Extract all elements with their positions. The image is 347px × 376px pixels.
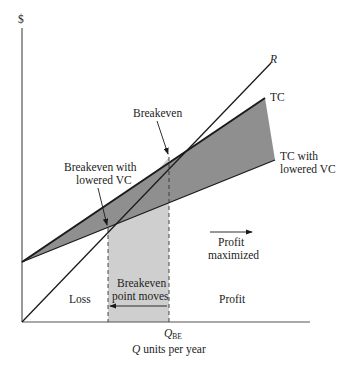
y-axis-label: $ bbox=[18, 13, 24, 25]
profit-label: Profit bbox=[219, 293, 246, 305]
qbe-tick-label: QBE bbox=[164, 327, 182, 341]
loss-label: Loss bbox=[69, 293, 91, 305]
breakeven-pointer bbox=[157, 121, 168, 154]
total-cost-label: TC bbox=[270, 91, 285, 103]
tc-lowered-label-2: lowered VC bbox=[280, 163, 336, 175]
qbe-subscript: BE bbox=[172, 332, 182, 341]
profit-max-label-2: maximized bbox=[208, 249, 259, 261]
moves-label-2: point moves bbox=[112, 290, 169, 303]
breakeven-diagram: $ R TC TC with lowered VC Breakeven Brea… bbox=[0, 0, 347, 376]
breakeven-label: Breakeven bbox=[133, 107, 182, 119]
lowered-breakeven-label-2: lowered VC bbox=[76, 174, 132, 186]
x-axis-label: Q units per year bbox=[132, 343, 206, 356]
lowered-breakeven-label-1: Breakeven with bbox=[64, 161, 137, 173]
moves-label-1: Breakeven bbox=[117, 277, 166, 289]
tc-lowered-label-1: TC with bbox=[280, 150, 318, 162]
revenue-label: R bbox=[269, 53, 277, 65]
profit-max-label-1: Profit bbox=[218, 236, 245, 248]
